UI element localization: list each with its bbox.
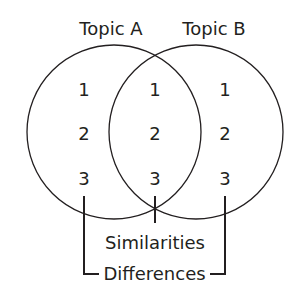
differences-bracket-right — [210, 196, 225, 274]
title-topic-a: Topic A — [78, 18, 143, 39]
similarities-label: Similarities — [105, 232, 205, 253]
intersection-item-2: 2 — [149, 123, 160, 144]
differences-bracket-left — [84, 196, 99, 274]
intersection-item-3: 3 — [149, 168, 160, 189]
topic-a-item-3: 3 — [78, 168, 89, 189]
topic-b-item-3: 3 — [219, 168, 230, 189]
topic-b-item-1: 1 — [219, 79, 230, 100]
circle-topic-b — [109, 45, 283, 219]
venn-diagram: Topic A Topic B 1 2 3 1 2 3 1 2 3 Simila… — [0, 0, 295, 301]
circle-topic-a — [27, 45, 201, 219]
intersection-item-1: 1 — [149, 79, 160, 100]
title-topic-b: Topic B — [181, 18, 245, 39]
topic-b-item-2: 2 — [219, 123, 230, 144]
differences-label: Differences — [103, 263, 205, 284]
topic-a-item-1: 1 — [78, 79, 89, 100]
topic-a-item-2: 2 — [78, 123, 89, 144]
